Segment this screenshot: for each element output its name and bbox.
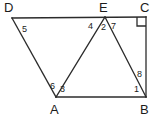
angle-label-2: 2: [101, 23, 106, 32]
angle-label-4: 4: [88, 22, 93, 31]
geometry-figure: D E C A B 1 2 3 4 5 6 7 8: [0, 0, 163, 120]
vertex-label-B: B: [140, 103, 149, 116]
angle-label-1: 1: [134, 85, 139, 94]
angle-label-6: 6: [50, 82, 55, 91]
segment-DC: [12, 17, 146, 18]
vertex-label-E: E: [99, 1, 108, 14]
vertex-label-C: C: [140, 1, 149, 14]
angle-label-8: 8: [137, 70, 142, 79]
right-angle-marker-C: [137, 17, 146, 26]
angle-label-5: 5: [22, 25, 27, 34]
vertex-label-A: A: [50, 103, 59, 116]
angle-label-7: 7: [111, 22, 116, 31]
angle-label-3: 3: [60, 85, 65, 94]
geometry-figure-canvas: [0, 0, 163, 120]
vertex-label-D: D: [4, 1, 13, 14]
